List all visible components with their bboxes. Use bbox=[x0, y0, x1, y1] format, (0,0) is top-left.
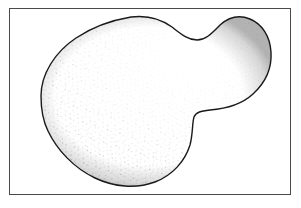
figure-root: Irregular stippled blob outline Closed i… bbox=[0, 0, 301, 208]
blob-illustration-canvas bbox=[0, 0, 301, 208]
blob-stipple-group bbox=[0, 0, 301, 208]
blob-rim-shading bbox=[40, 16, 272, 187]
